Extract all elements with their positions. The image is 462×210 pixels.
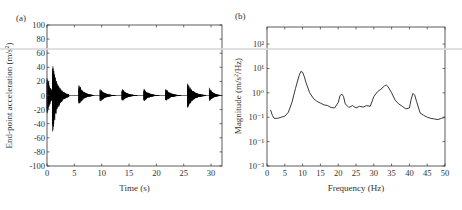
x-tick-label: 5 [72,168,76,178]
panel-b-label: (b) [235,11,246,21]
y-tick-label: 10¹ [253,63,265,73]
y-tick-label: 100 [32,20,45,30]
x-tick-label: 10 [298,168,307,178]
panel-b-chart: (b) 05101520253035404550 10²10¹10⁰10⁻¹10… [233,11,449,193]
panel-a-x-axis-label: Time (s) [119,183,149,193]
y-tick-label: 0 [41,91,45,101]
x-tick-label: 20 [152,168,161,178]
y-tick-label: 80 [37,34,46,44]
panel-b-x-axis-label: Frequency (Hz) [328,183,385,193]
x-tick-label: 30 [207,168,216,178]
acceleration-signal [47,66,222,131]
x-tick-label: 25 [179,168,188,178]
y-tick-label: -40 [34,119,45,129]
y-tick-label: 10⁻¹ [248,137,264,147]
x-tick-label: 25 [352,168,361,178]
x-tick-label: 0 [265,168,269,178]
x-tick-label: 45 [423,168,432,178]
x-tick-label: 15 [316,168,325,178]
y-tick-label: -20 [34,105,45,115]
panel-b-y-axis-label: Magnitude (m/s2/Hz) [233,58,243,134]
y-tick-label: 20 [37,76,46,86]
x-tick-label: 35 [387,168,396,178]
y-tick-label: 10² [253,39,265,49]
y-tick-label: 10⁰ [252,88,265,98]
y-tick-label: 10⁻³ [248,161,264,171]
panel-a-y-axis-label: End-point acceleration (m/s2) [4,43,14,149]
x-tick-label: 20 [334,168,343,178]
x-tick-label: 50 [441,168,450,178]
x-tick-label: 30 [370,168,379,178]
scan-artifact-line [0,48,462,50]
y-tick-label: -100 [29,161,45,171]
y-tick-label: 40 [37,62,46,72]
panel-a-chart: (a) 051015202530 100806040200-20-40-60-8… [4,13,222,193]
figure: (a) 051015202530 100806040200-20-40-60-8… [0,0,462,210]
y-tick-label: -80 [34,147,45,157]
y-tick-label: 10⁻¹ [248,112,264,122]
magnitude-spectrum-line [271,71,445,119]
x-tick-label: 0 [45,168,49,178]
x-tick-label: 10 [97,168,106,178]
y-tick-label: -60 [34,133,45,143]
panel-a-label: (a) [16,13,26,23]
x-tick-label: 5 [283,168,287,178]
x-tick-label: 15 [125,168,134,178]
x-tick-label: 40 [405,168,414,178]
